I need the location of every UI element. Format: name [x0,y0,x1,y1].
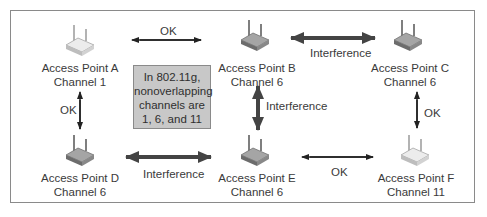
node-channel: Channel 11 [366,185,466,199]
node-name: Access Point B [207,61,307,75]
node-label-e: Access Point E Channel 6 [207,171,307,199]
node-name: Access Point C [360,61,460,75]
node-channel: Channel 6 [207,75,307,89]
node-channel: Channel 1 [30,75,130,89]
node-channel: Channel 6 [30,185,130,199]
node-name: Access Point D [30,171,130,185]
edge-label-a-b: OK [160,25,177,37]
router-icon-d [66,135,94,166]
edge-label-c-f: OK [424,107,441,119]
node-channel: Channel 6 [207,185,307,199]
note-line: channels are [134,98,210,112]
edge-label-b-e: Interference [266,100,327,112]
node-channel: Channel 6 [360,75,460,89]
node-name: Access Point F [366,171,466,185]
router-icon-c [394,20,422,51]
edge-label-e-f: OK [331,166,348,178]
router-icon-b [241,20,269,51]
edge-label-b-c: Interference [310,47,371,59]
edge-label-a-d: OK [60,104,77,116]
router-icon-e [241,135,269,166]
note-line: 1, 6, and 11 [134,112,210,126]
node-label-c: Access Point C Channel 6 [360,61,460,89]
info-note-box: In 802.11g, nonoverlapping channels are … [133,65,211,129]
node-label-b: Access Point B Channel 6 [207,61,307,89]
node-label-f: Access Point F Channel 11 [366,171,466,199]
router-icon-f [401,135,429,166]
node-label-a: Access Point A Channel 1 [30,61,130,89]
note-line: In 802.11g, [134,70,210,84]
node-name: Access Point E [207,171,307,185]
node-name: Access Point A [30,61,130,75]
router-icon-a [66,25,94,56]
note-line: nonoverlapping [134,84,210,98]
node-label-d: Access Point D Channel 6 [30,171,130,199]
edge-label-d-e: Interference [143,168,204,180]
